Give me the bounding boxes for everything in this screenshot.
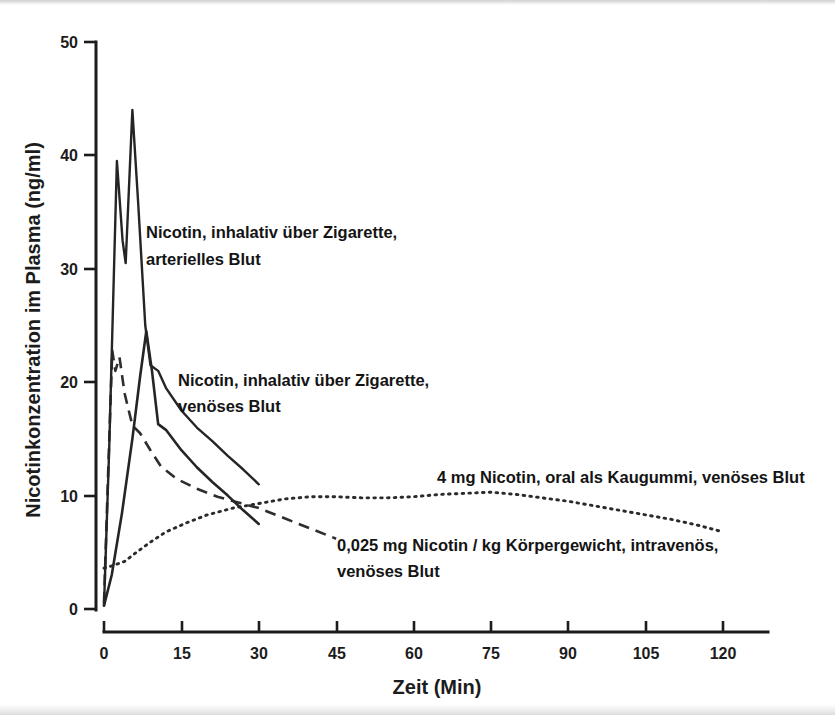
figure-canvas: 50 40 30 20 10 0 Nicotinkonzentration im… <box>0 0 835 715</box>
y-tick-label-0: 0 <box>69 601 78 618</box>
y-axis-ticks <box>84 42 96 609</box>
x-axis-group: 0 15 30 45 60 75 90 105 120 Zeit (Min) <box>100 621 768 698</box>
x-tick-label-15: 15 <box>173 645 191 662</box>
annotation-iv-line1: 0,025 mg Nicotin / kg Körpergewicht, int… <box>337 536 718 554</box>
annotation-gum-line1: 4 mg Nicotin, oral als Kaugummi, venöses… <box>437 468 805 486</box>
series-line-gum-oral <box>104 492 723 568</box>
nicotine-plasma-concentration-chart: 50 40 30 20 10 0 Nicotinkonzentration im… <box>0 0 835 715</box>
y-axis-group: 50 40 30 20 10 0 Nicotinkonzentration im… <box>22 34 96 618</box>
x-axis-title: Zeit (Min) <box>393 676 482 698</box>
x-axis-ticks <box>104 621 723 632</box>
y-tick-label-20: 20 <box>60 374 78 391</box>
x-tick-label-120: 120 <box>710 645 737 662</box>
y-tick-label-30: 30 <box>60 261 78 278</box>
x-tick-label-75: 75 <box>482 645 500 662</box>
annotation-venous-line2: venöses Blut <box>178 397 281 415</box>
x-tick-label-60: 60 <box>405 645 423 662</box>
annotation-arterial-line1: Nicotin, inhalativ über Zigarette, <box>146 223 397 241</box>
annotation-arterial-line2: arterielles Blut <box>146 250 261 268</box>
x-tick-label-105: 105 <box>633 645 660 662</box>
series-group <box>104 110 723 606</box>
y-tick-label-10: 10 <box>60 488 78 505</box>
x-tick-label-30: 30 <box>250 645 268 662</box>
annotation-iv-line2: venöses Blut <box>337 562 440 580</box>
x-tick-label-45: 45 <box>328 645 346 662</box>
series-line-cigarette-arterial <box>104 110 259 606</box>
y-axis-title: Nicotinkonzentration im Plasma (ng/ml) <box>22 142 44 518</box>
y-tick-label-50: 50 <box>60 34 78 51</box>
x-tick-label-90: 90 <box>559 645 577 662</box>
annotation-venous-line1: Nicotin, inhalativ über Zigarette, <box>178 371 429 389</box>
y-tick-label-40: 40 <box>60 147 78 164</box>
x-tick-label-0: 0 <box>100 645 109 662</box>
